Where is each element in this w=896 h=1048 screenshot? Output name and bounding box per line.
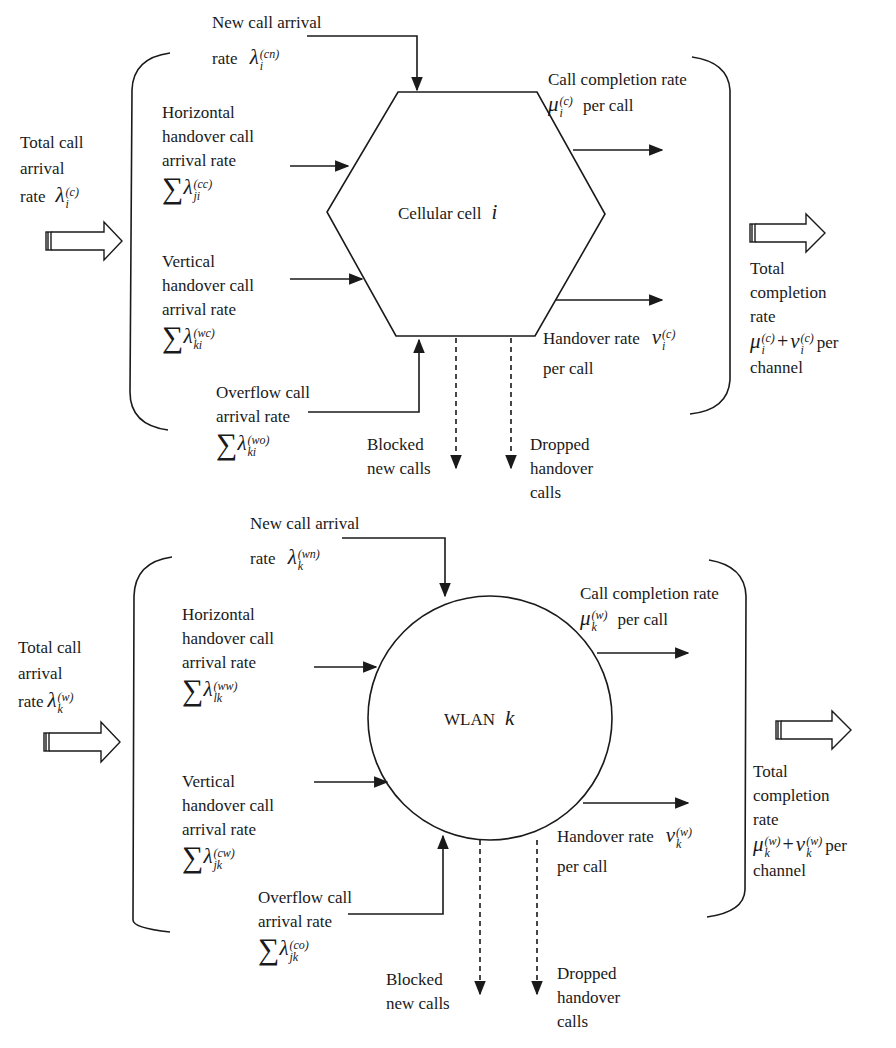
overflow-label: Overflow call arrival rate ∑λ(wo)ki [216, 381, 310, 458]
handover-rate-label-wlan: Handover rateν(w)k per call [557, 820, 692, 882]
dropped-calls-label-wlan: Dropped handover calls [557, 962, 620, 1034]
cellular-cell-label: Cellular celli [398, 200, 497, 226]
diagram-canvas [0, 0, 896, 1048]
total-completion-label-wlan: Total completion rate μ(w)k+ν(w)kper cha… [753, 760, 847, 883]
total-arrival-label: Total call arrival rateλ(c)i [20, 130, 83, 210]
right-brace-top [690, 57, 730, 414]
new-call-rate-wlan: rate λ(wn)k [250, 545, 320, 572]
hollow-arrow-out-bottom [776, 711, 851, 749]
left-brace-bottom [133, 557, 172, 932]
horizontal-handover-label-wlan: Horizontal handover call arrival rate ∑λ… [182, 603, 274, 704]
new-call-label: New call arrival [212, 11, 322, 35]
new-call-rate: rate λ(cn)i [212, 45, 279, 72]
overflow-label-wlan: Overflow call arrival rate ∑λ(co)jk [258, 886, 352, 963]
horizontal-handover-label: Horizontal handover call arrival rate ∑λ… [162, 101, 254, 202]
dropped-calls-label: Dropped handover calls [530, 433, 593, 505]
hollow-arrow-in-top [46, 222, 122, 260]
blocked-calls-label-wlan: Blocked new calls [386, 968, 450, 1016]
blocked-calls-label: Blocked new calls [367, 433, 431, 481]
hollow-arrow-in-bottom [44, 722, 120, 762]
hollow-arrow-out-top [750, 214, 825, 252]
sum-symbol: ∑ [162, 171, 183, 204]
wlan-label: WLANk [444, 706, 514, 732]
completion-rate-label: Call completion rate μ(c)iper call [548, 68, 687, 119]
lambda-symbol: λ [250, 45, 259, 69]
total-arrival-label-wlan: Total call arrival rateλ(w)k [18, 635, 81, 715]
total-completion-label: Total completion rate μ(c)i+ν(c)iper cha… [750, 257, 839, 380]
handover-rate-label: Handover rateν(c)i per call [543, 322, 675, 384]
vertical-handover-label-wlan: Vertical handover call arrival rate ∑λ(c… [182, 770, 274, 871]
vertical-handover-label: Vertical handover call arrival rate ∑λ(w… [162, 250, 254, 351]
rate-word: rate [212, 49, 237, 68]
completion-rate-label-wlan: Call completion rate μ(w)kper call [580, 582, 719, 633]
new-call-label-wlan: New call arrival [250, 512, 360, 536]
